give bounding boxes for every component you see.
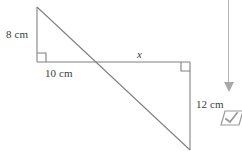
label-left-horizontal-leg: 10 cm: [45, 68, 73, 79]
figure-svg: [0, 0, 242, 158]
parallelogram-outline: [221, 111, 242, 125]
label-unknown-side-x: x: [137, 49, 142, 60]
right-rail: [220, 0, 242, 158]
right-angle-marker-left: [37, 53, 46, 62]
label-left-vertical-leg: 8 cm: [6, 29, 28, 40]
scroll-down-arrow-icon[interactable]: [224, 82, 234, 92]
checkmark-stroke: [226, 113, 237, 122]
scrollbar-track[interactable]: [228, 0, 229, 84]
right-angle-marker-right: [181, 62, 190, 71]
checkmark-parallelogram-icon[interactable]: [220, 108, 242, 128]
geometry-figure: 8 cm 10 cm x 12 cm: [0, 0, 242, 158]
